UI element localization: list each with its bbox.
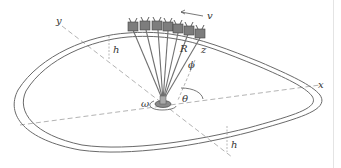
label-v: v <box>207 10 213 21</box>
label-h-bottom: h <box>231 139 237 150</box>
right-border <box>333 0 334 168</box>
label-omega: ω <box>141 98 149 109</box>
label-h-top: h <box>113 44 119 55</box>
label-z: z <box>200 44 207 55</box>
velocity-arrow <box>181 10 203 16</box>
hub-post <box>160 96 166 104</box>
label-y: y <box>55 15 62 26</box>
label-R: R <box>179 43 188 54</box>
label-x: x <box>318 79 324 90</box>
ride-diagram: y x z h h R ϕ θ ω v <box>0 0 341 168</box>
label-theta: θ <box>182 93 188 104</box>
cars <box>128 21 205 38</box>
label-phi: ϕ <box>188 59 195 70</box>
